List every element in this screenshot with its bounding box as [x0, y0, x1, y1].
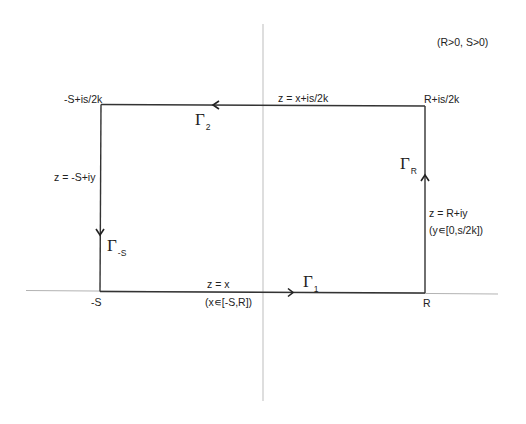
contour-edge-gamma-neg-s — [100, 105, 101, 292]
gamma-r-symbol: Γ — [400, 154, 410, 173]
gamma-1-subscript: 1 — [314, 284, 319, 294]
gamma-2-label: Γ2 — [195, 111, 211, 128]
corner-top-left-label: -S+is/2k — [64, 94, 102, 105]
corner-top-right-label: R+is/2k — [424, 94, 459, 105]
gamma-neg-s-label: Γ-S — [107, 237, 126, 254]
gamma-1-symbol: Γ — [303, 272, 313, 291]
corner-bottom-right-label: R — [423, 298, 431, 309]
corner-bottom-left-label: -S — [91, 297, 102, 308]
gamma-neg-s-equation: z = -S+iy — [54, 172, 95, 183]
contour-diagram: (R>0, S>0) -S+is/2k R+is/2k -S R z = x+i… — [0, 0, 526, 424]
gamma-r-equation: z = R+iy — [429, 208, 468, 219]
gamma-1-range: (x∊[-S,R]) — [205, 297, 252, 308]
contour-edge-gamma-1 — [100, 292, 425, 294]
gamma-r-subscript: R — [411, 166, 417, 176]
gamma-1-label: Γ1 — [303, 273, 319, 290]
contour-edge-gamma-2 — [101, 105, 425, 107]
gamma-1-equation: z = x — [207, 279, 229, 290]
gamma-r-range: (y∊[0,s/2k]) — [429, 225, 483, 236]
gamma-neg-s-symbol: Γ — [107, 236, 117, 255]
gamma-r-label: ΓR — [400, 155, 417, 172]
gamma-2-symbol: Γ — [195, 110, 205, 129]
gamma-neg-s-subscript: -S — [118, 248, 127, 258]
gamma-2-subscript: 2 — [206, 122, 211, 132]
condition-label: (R>0, S>0) — [437, 37, 488, 48]
gamma-2-equation: z = x+is/2k — [278, 93, 328, 104]
